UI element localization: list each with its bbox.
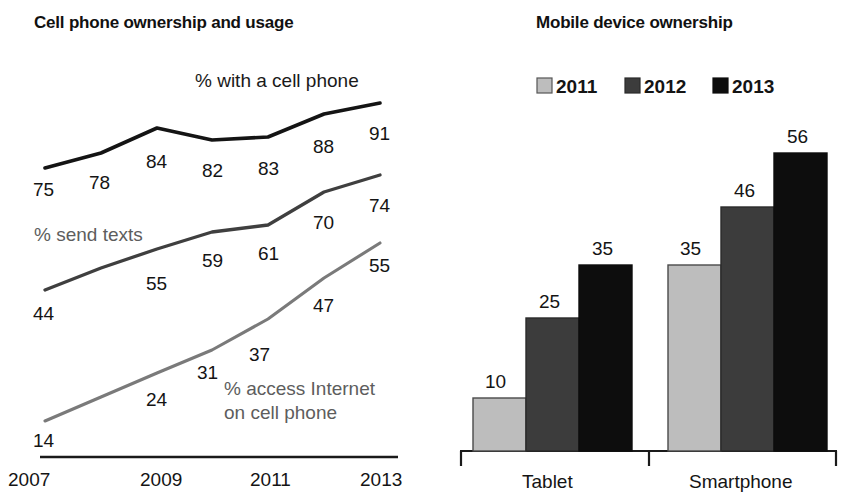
point-label-internet-2007: 14 <box>33 430 55 451</box>
bar-value-tablet-2013: 35 <box>592 238 613 259</box>
legend-label-2011: 2011 <box>556 76 598 97</box>
bar-value-tablet-2011: 10 <box>485 371 506 392</box>
annotation-internet-line1: % access Internet <box>224 378 376 399</box>
annotation-internet-line2: on cell phone <box>224 402 337 423</box>
x-tick-2007: 2007 <box>8 469 50 490</box>
bar-value-smartphone-2013: 56 <box>787 126 808 147</box>
legend-swatch-2011 <box>537 78 552 93</box>
bar-axis <box>460 451 837 466</box>
point-label-texts-2012: 70 <box>313 212 334 233</box>
point-label-cellphone-2010: 82 <box>202 160 223 181</box>
bar-smartphone-2012 <box>721 207 774 451</box>
legend-label-2013: 2013 <box>732 76 774 97</box>
bar-group-smartphone: 35 46 56 <box>668 126 827 451</box>
bar-value-smartphone-2012: 46 <box>734 180 755 201</box>
category-label-tablet: Tablet <box>522 471 573 492</box>
legend-swatch-2012 <box>625 78 640 93</box>
point-label-cellphone-2012: 88 <box>313 136 334 157</box>
point-label-internet-2012: 47 <box>313 295 334 316</box>
legend: 2011 2012 2013 <box>537 76 774 97</box>
bar-smartphone-2011 <box>668 265 721 451</box>
annotation-cellphone: % with a cell phone <box>195 70 359 91</box>
legend-label-2012: 2012 <box>644 76 686 97</box>
annotation-texts: % send texts <box>34 224 143 245</box>
point-label-texts-2013: 74 <box>369 195 391 216</box>
point-label-texts-2009: 55 <box>146 273 167 294</box>
point-label-texts-2007: 44 <box>33 303 55 324</box>
legend-swatch-2013 <box>713 78 728 93</box>
bar-chart-panel: Mobile device ownership 2011 2012 2013 1… <box>440 0 857 499</box>
point-label-cellphone-2013: 91 <box>369 123 390 144</box>
bar-tablet-2012 <box>526 318 579 451</box>
point-label-internet-2013: 55 <box>369 255 390 276</box>
bar-group-tablet: 10 25 35 <box>473 238 632 451</box>
x-tick-2013: 2013 <box>360 469 402 490</box>
line-chart-panel: Cell phone ownership and usage % with a … <box>0 0 440 499</box>
bar-chart-svg: 2011 2012 2013 10 25 35 35 <box>440 0 857 499</box>
bar-value-smartphone-2011: 35 <box>680 238 701 259</box>
point-label-texts-2010: 59 <box>202 250 223 271</box>
point-label-cellphone-2007: 75 <box>33 179 54 200</box>
line-chart-svg: % with a cell phone % send texts % acces… <box>0 0 440 499</box>
bar-tablet-2011 <box>473 398 526 451</box>
category-label-smartphone: Smartphone <box>689 471 793 492</box>
point-label-cellphone-2009: 84 <box>146 151 168 172</box>
point-label-internet-2009: 24 <box>146 389 168 410</box>
point-label-texts-2011: 61 <box>258 243 279 264</box>
bar-value-tablet-2012: 25 <box>539 291 560 312</box>
point-label-internet-2011: 37 <box>249 344 270 365</box>
bar-tablet-2013 <box>579 265 632 451</box>
x-tick-2009: 2009 <box>140 469 182 490</box>
bar-smartphone-2013 <box>774 153 827 451</box>
x-tick-2011: 2011 <box>250 469 291 490</box>
point-label-cellphone-2011: 83 <box>258 158 279 179</box>
point-label-cellphone-2008: 78 <box>89 172 110 193</box>
point-label-internet-2010: 31 <box>197 362 218 383</box>
